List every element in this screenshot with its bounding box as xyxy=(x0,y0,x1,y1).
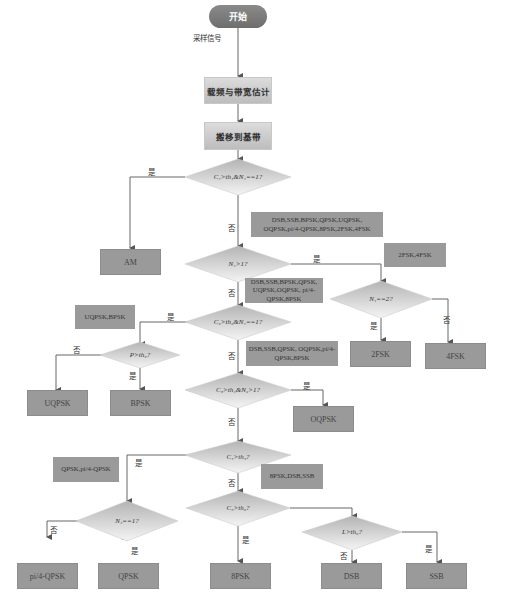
result-label: 8PSK xyxy=(231,572,250,581)
result-label: pi/4-QPSK xyxy=(30,572,66,581)
note-candidates-1: DSB,SSB,BPSK,QPSK,UQPSK, OQPSK,pi/4-QPSK… xyxy=(251,212,383,237)
note-candidates-7: 8PSK,DSB,SSB xyxy=(261,464,323,489)
note-candidates-6: QPSK,pi/4-QPSK xyxy=(53,457,119,482)
edge-d9-yes: 是 xyxy=(242,534,249,545)
decision-d8-label: N₄==1? xyxy=(115,517,139,525)
result-oqpsk: OQPSK xyxy=(293,406,354,432)
result-2fsk: 2FSK xyxy=(350,341,411,367)
result-label: AM xyxy=(124,258,137,267)
result-bpsk: BPSK xyxy=(110,390,171,416)
note-candidates-5: DSB,SSB,QPSK, OQPSK,pi/4-QPSK,8PSK xyxy=(246,341,338,366)
result-am: AM xyxy=(100,249,161,275)
edge-d5-no: 否 xyxy=(73,344,80,355)
decision-d1-label: C₁>th₁&N₁==1? xyxy=(214,173,263,181)
edge-d8-yes: 是 xyxy=(131,545,138,556)
result-pi4-qpsk: pi/4-QPSK xyxy=(17,563,78,589)
edge-d6-yes: 是 xyxy=(303,380,310,391)
edge-d3-no: 否 xyxy=(443,314,450,325)
edge-d7-yes: 是 xyxy=(135,457,142,468)
result-uqpsk: UQPSK xyxy=(27,390,88,416)
edge-d5-yes: 是 xyxy=(129,370,136,381)
note-candidates-3: DSB,SSB,BPSK,QPSK, UQPSK,OQPSK, pi/4-QPS… xyxy=(245,278,323,303)
step-carrier-estimation: 载频与带宽估计 xyxy=(204,77,272,104)
step-label: 搬移到基带 xyxy=(216,130,261,142)
decision-d6-label: C₃>th₄&N₂>1? xyxy=(216,386,260,394)
result-label: QPSK xyxy=(118,572,138,581)
edge-d2-yes: 是 xyxy=(313,253,320,264)
step-label: 载频与带宽估计 xyxy=(207,85,270,97)
result-ssb: SSB xyxy=(406,563,467,589)
decision-d2-label: N₁>1? xyxy=(229,260,248,268)
note-candidates-4: UQPSK,BPSK xyxy=(75,305,135,329)
result-4fsk: 4FSK xyxy=(425,343,486,369)
decision-d5-label: P>th₃? xyxy=(130,351,150,359)
result-label: SSB xyxy=(429,572,443,581)
edge-d1-yes: 是 xyxy=(148,166,155,177)
edge-d1-no: 否 xyxy=(228,222,235,233)
note-candidates-2: 2FSK,4FSK xyxy=(384,243,446,267)
result-label: 4FSK xyxy=(446,352,465,361)
step-baseband-shift: 搬移到基带 xyxy=(204,122,272,150)
result-label: 2FSK xyxy=(371,350,390,359)
decision-d4-label: C₂>th₂&N₁==1? xyxy=(214,318,263,326)
decision-d9-label: C₅>th₆? xyxy=(226,504,249,512)
result-8psk: 8PSK xyxy=(210,563,271,589)
edge-d3-yes: 是 xyxy=(370,320,377,331)
edge-d4-no: 否 xyxy=(228,350,235,361)
decision-d7-label: C₄>th₅? xyxy=(226,453,249,461)
edge-d8-no: 否 xyxy=(50,524,57,535)
edge-d2-no: 否 xyxy=(228,287,235,298)
result-dsb: DSB xyxy=(321,563,382,589)
decision-d3-label: N₁==2? xyxy=(369,295,393,303)
result-label: DSB xyxy=(344,572,360,581)
result-label: OQPSK xyxy=(310,415,336,424)
edge-d10-no: 否 xyxy=(340,550,347,561)
result-label: UQPSK xyxy=(44,399,70,408)
input-label: 采样信号 xyxy=(193,32,221,43)
edge-d6-no: 否 xyxy=(228,416,235,427)
edge-d4-yes: 是 xyxy=(167,311,174,322)
start-node: 开始 xyxy=(209,5,267,28)
start-label: 开始 xyxy=(229,10,247,23)
result-qpsk: QPSK xyxy=(98,563,159,589)
edge-d7-no: 否 xyxy=(228,477,235,488)
edge-d10-yes: 是 xyxy=(425,543,432,554)
result-label: BPSK xyxy=(130,399,150,408)
decision-d10-label: L>th₆? xyxy=(342,528,362,536)
